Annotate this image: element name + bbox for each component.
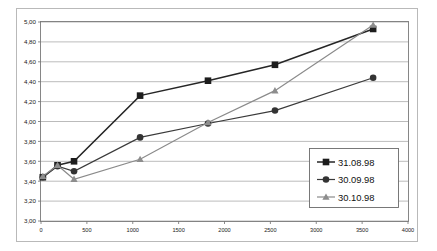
y-tick-label: 4,80	[24, 38, 37, 45]
legend-marker	[323, 159, 330, 166]
y-tick-label: 4,60	[24, 58, 37, 65]
x-tick-label: 3000	[310, 227, 322, 233]
legend-label: 30.10.98	[338, 192, 375, 203]
data-point	[137, 134, 144, 141]
data-point	[271, 87, 278, 93]
y-tick-label: 4,40	[24, 78, 37, 85]
data-point	[370, 74, 377, 81]
y-tick-label: 3,00	[24, 217, 37, 224]
legend-marker	[323, 176, 330, 183]
y-tick-label: 5,00	[24, 18, 37, 25]
y-tick-label: 3,80	[24, 138, 37, 145]
y-tick-label: 4,20	[24, 98, 37, 105]
y-tick-label: 3,20	[24, 197, 37, 204]
data-point	[136, 156, 143, 162]
line-chart: 3,003,203,403,603,804,004,204,404,604,80…	[0, 0, 437, 251]
x-tick-label: 1000	[127, 227, 139, 233]
data-point	[272, 107, 279, 114]
data-point	[272, 61, 279, 68]
x-tick-label: 500	[82, 227, 91, 233]
chart-plot-area: 3,003,203,403,603,804,004,204,404,604,80…	[0, 0, 437, 251]
legend-label: 30.09.98	[338, 174, 375, 185]
y-tick-label: 3,60	[24, 158, 37, 165]
x-tick-label: 2500	[264, 227, 276, 233]
data-point	[71, 168, 78, 175]
data-point	[205, 77, 212, 84]
x-tick-labels-group: 05001000150020002500300035004000	[39, 227, 414, 233]
data-point	[71, 158, 78, 165]
x-tick-label: 3500	[356, 227, 368, 233]
x-tick-label: 2000	[218, 227, 230, 233]
chart-legend[interactable]: 31.08.9830.09.9830.10.98	[310, 149, 399, 208]
data-point	[137, 92, 144, 99]
x-tick-label: 0	[39, 227, 42, 233]
y-tick-labels-group: 3,003,203,403,603,804,004,204,404,604,80…	[24, 18, 37, 224]
data-point	[370, 21, 377, 27]
x-tick-label: 4000	[402, 227, 414, 233]
x-tick-label: 1500	[172, 227, 184, 233]
legend-label: 31.08.98	[338, 157, 375, 168]
y-tick-label: 4,00	[24, 118, 37, 125]
y-tick-label: 3,40	[24, 178, 37, 185]
